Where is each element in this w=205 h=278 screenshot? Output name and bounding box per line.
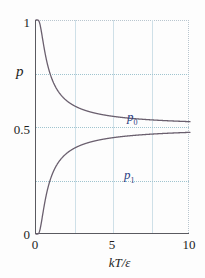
- y-tick-label-0.5: 0.5: [0, 123, 30, 136]
- curve-p1: [36, 132, 190, 234]
- x-axis-title: kT/ε: [0, 256, 205, 269]
- curve-p0: [36, 20, 190, 122]
- curve-layer: [36, 20, 190, 234]
- plot-area: p0 p1: [35, 20, 189, 234]
- series-annotation-p0-sub: 0: [134, 118, 138, 127]
- series-annotation-p0: p0: [127, 110, 138, 127]
- series-annotation-p1-sub: 1: [131, 176, 135, 185]
- y-tick-label-1: 1: [0, 16, 30, 29]
- chart-figure: p 1 0.5 0 0 5 10 kT/ε p0 p1: [0, 0, 205, 278]
- x-tick-label-5: 5: [97, 238, 127, 251]
- series-annotation-p1: p1: [124, 168, 135, 185]
- y-axis-title: p: [16, 64, 24, 79]
- x-tick-label-0: 0: [20, 238, 50, 251]
- x-tick-label-10: 10: [174, 238, 204, 251]
